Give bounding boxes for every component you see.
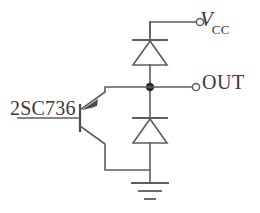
ground-symbol	[131, 183, 169, 199]
transistor-part-label: 2SC736	[10, 98, 76, 118]
transistor-emitter-arrow	[82, 99, 98, 110]
out-label: OUT	[202, 72, 245, 92]
out-terminal-circle	[192, 83, 199, 90]
vcc-label-symbol: V	[200, 7, 213, 31]
diode-upper	[133, 40, 167, 65]
vcc-branch-wire	[150, 22, 196, 37]
vcc-label: VCC	[200, 9, 231, 33]
diode-lower	[133, 118, 167, 143]
diode-lower-triangle	[133, 119, 167, 143]
schematic-figure: VCC OUT 2SC736	[0, 0, 260, 213]
diode-upper-triangle	[133, 41, 167, 65]
vcc-label-subscript: CC	[212, 22, 230, 37]
